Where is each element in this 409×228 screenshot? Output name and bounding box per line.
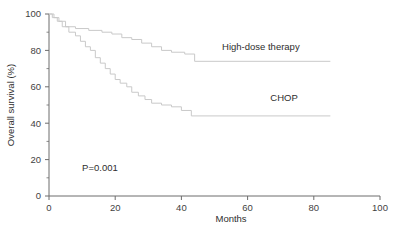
y-axis-title: Overall survival (%)	[5, 64, 16, 146]
chart-canvas: 020406080100020406080100MonthsOverall su…	[0, 0, 409, 228]
x-tick-label-20: 20	[110, 202, 121, 213]
x-axis-title: Months	[215, 213, 246, 224]
series-curve-0	[49, 14, 330, 61]
annotation-p-value: P=0.001	[82, 162, 118, 173]
x-tick-label-0: 0	[46, 202, 51, 213]
x-tick-label-80: 80	[309, 202, 320, 213]
y-tick-label-60: 60	[30, 81, 41, 92]
series-label-1: CHOP	[270, 92, 297, 103]
y-tick-label-40: 40	[30, 118, 41, 129]
y-tick-label-80: 80	[30, 45, 41, 56]
y-tick-label-100: 100	[25, 8, 41, 19]
y-tick-label-0: 0	[36, 190, 41, 201]
x-tick-label-60: 60	[242, 202, 253, 213]
y-tick-label-20: 20	[30, 154, 41, 165]
kaplan-meier-survival-chart: 020406080100020406080100MonthsOverall su…	[0, 0, 409, 228]
x-tick-label-40: 40	[176, 202, 187, 213]
series-label-0: High-dose therapy	[222, 41, 300, 52]
x-tick-label-100: 100	[372, 202, 388, 213]
